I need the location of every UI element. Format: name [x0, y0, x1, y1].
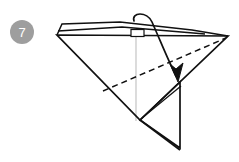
origami-diagram-canvas: 7	[0, 0, 239, 162]
step-badge-label: 7	[18, 25, 25, 40]
figure-background	[0, 0, 239, 162]
origami-figure: 7	[0, 0, 239, 162]
step-number-badge: 7	[10, 20, 34, 44]
fold-tab-marker	[131, 30, 144, 37]
